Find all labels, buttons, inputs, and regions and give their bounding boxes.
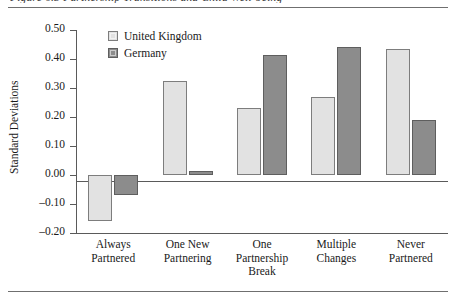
- bar-germany: [263, 55, 287, 175]
- bar-uk: [237, 108, 261, 175]
- y-tick: 0.00: [70, 175, 76, 176]
- figure-container: Figure 6.3 Partnership Transitions and C…: [0, 0, 456, 303]
- y-tick-label: 0.40: [23, 51, 65, 63]
- y-axis-line: [76, 30, 77, 233]
- x-axis-label: NeverPartnered: [374, 238, 448, 265]
- y-tick-label: 0.30: [23, 80, 65, 92]
- y-tick: 0.50: [70, 30, 76, 31]
- y-axis-title: Standard Deviations: [8, 52, 24, 202]
- legend-label: Germany: [124, 47, 167, 59]
- figure-rule-top: [8, 7, 448, 8]
- x-axis-label: MultipleChanges: [299, 238, 373, 265]
- y-tick: 0.10: [70, 146, 76, 147]
- x-axis-label: AlwaysPartnered: [76, 238, 150, 265]
- y-tick-label: 0.50: [23, 22, 65, 34]
- bar-germany: [114, 175, 138, 195]
- chart-legend: United KingdomGermany: [108, 28, 202, 62]
- y-tick: 0.40: [70, 59, 76, 60]
- y-tick: –0.20: [70, 233, 76, 234]
- legend-item: United Kingdom: [108, 28, 202, 43]
- y-tick-label: –0.10: [23, 196, 65, 208]
- y-tick-label: 0.00: [23, 167, 65, 179]
- bar-germany: [189, 171, 213, 175]
- legend-swatch-icon: [108, 31, 118, 41]
- bar-uk: [311, 97, 335, 175]
- figure-caption-sliver: Figure 6.3 Partnership Transitions and C…: [10, 0, 446, 3]
- bar-uk: [88, 175, 112, 221]
- figure-rule-bottom: [8, 291, 448, 292]
- bar-germany: [412, 120, 436, 175]
- bar-uk: [163, 81, 187, 175]
- x-axis-label: OnePartnershipBreak: [225, 238, 299, 279]
- y-tick: 0.20: [70, 117, 76, 118]
- legend-item: Germany: [108, 45, 202, 60]
- x-axis-line: [76, 233, 448, 234]
- y-tick-label: 0.10: [23, 138, 65, 150]
- legend-swatch-icon: [108, 48, 118, 58]
- y-tick-label: 0.20: [23, 109, 65, 121]
- legend-label: United Kingdom: [124, 30, 202, 42]
- bar-uk: [386, 49, 410, 175]
- x-axis-label: One NewPartnering: [150, 238, 224, 265]
- y-tick: 0.30: [70, 88, 76, 89]
- y-tick-label: –0.20: [23, 225, 65, 237]
- bar-germany: [337, 47, 361, 175]
- y-tick: –0.10: [70, 204, 76, 205]
